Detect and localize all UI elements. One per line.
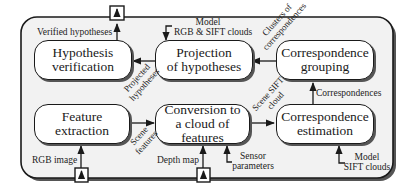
label-model-rgb-sift-clouds: Model RGB & SIFT clouds bbox=[168, 17, 248, 37]
label-model-sift-clouds: Model SIFT clouds bbox=[340, 152, 394, 172]
node-correspondence-estimation: Correspondenceestimation bbox=[276, 104, 374, 144]
label-rgb-image: RGB image bbox=[32, 155, 77, 165]
node-conversion-to-cloud-of-features: Conversion toa cloud of features bbox=[155, 104, 250, 144]
label-sensor-parameters: Sensor parameters bbox=[228, 151, 278, 171]
node-hypothesis-verification: Hypothesisverification bbox=[34, 40, 132, 80]
label-verified-hypotheses: Verified hypotheses bbox=[37, 27, 112, 37]
node-projection-of-hypotheses: Projectionof hypotheses bbox=[155, 40, 253, 80]
label-depth-map: Depth map bbox=[157, 155, 199, 165]
node-correspondence-grouping: Correspondencegrouping bbox=[276, 40, 374, 80]
node-feature-extraction: Featureextraction bbox=[34, 104, 130, 144]
label-correspondences: Correspondences bbox=[316, 88, 381, 98]
